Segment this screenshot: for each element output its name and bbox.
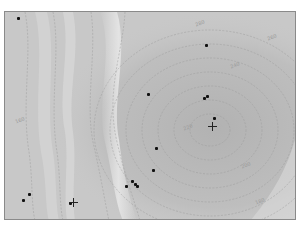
crosshair-icon[interactable] [69,198,78,207]
sample-point-marker[interactable] [136,185,139,188]
contour-map[interactable]: 280 260 240 220 200 180 160 [4,11,296,220]
sample-point-marker[interactable] [152,169,155,172]
sample-point-marker[interactable] [147,93,150,96]
sample-point-marker[interactable] [125,185,128,188]
sample-point-marker[interactable] [28,193,31,196]
sample-point-marker[interactable] [155,147,158,150]
sample-point-marker[interactable] [22,199,25,202]
contour-surface [5,12,296,220]
crosshair-icon[interactable] [208,122,217,131]
sample-point-marker[interactable] [205,44,208,47]
sample-point-marker[interactable] [206,95,209,98]
sample-point-marker[interactable] [213,117,216,120]
sample-point-marker[interactable] [17,17,20,20]
